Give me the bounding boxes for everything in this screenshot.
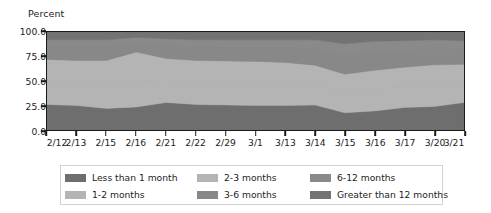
legend-swatch-icon	[310, 191, 331, 199]
x-axis-tick-mark	[374, 131, 376, 136]
legend-item[interactable]: 6-12 months	[310, 169, 440, 186]
legend-grid: Less than 1 month2-3 months6-12 months1-…	[65, 169, 440, 203]
x-axis-tick-mark	[255, 131, 257, 136]
x-axis-tick-label: 3/15	[335, 137, 356, 148]
legend-item-label: 2-3 months	[224, 173, 277, 182]
x-axis-tick-label: 3/20	[425, 137, 446, 148]
x-axis-tick-label: 3/13	[275, 137, 296, 148]
legend-swatch-icon	[310, 174, 331, 182]
x-axis-tick-mark	[165, 131, 167, 136]
legend-item[interactable]: Greater than 12 months	[310, 186, 440, 203]
x-axis-tick-mark	[285, 131, 287, 136]
chart-legend: Less than 1 month2-3 months6-12 months1-…	[60, 165, 443, 205]
x-axis-tick-mark	[464, 131, 466, 136]
x-axis-tick-label: 3/14	[305, 137, 326, 148]
x-axis-tick-mark	[75, 131, 77, 136]
y-axis-tick-label: 25.0	[4, 101, 46, 112]
x-axis-tick-mark	[195, 131, 197, 136]
x-axis-tick-label: 3/21	[444, 137, 465, 148]
x-axis: 2/122/132/152/162/212/222/293/13/133/143…	[46, 131, 465, 157]
x-axis-tick-label: 2/15	[96, 137, 117, 148]
legend-item[interactable]: 2-3 months	[197, 169, 310, 186]
y-axis-tick-label: 75.0	[4, 51, 46, 62]
x-axis-tick-label: 3/16	[365, 137, 386, 148]
x-axis-tick-label: 3/1	[248, 137, 263, 148]
x-axis-tick-label: 2/12	[47, 137, 68, 148]
x-axis-tick-mark	[434, 131, 436, 136]
stacked-area-series	[47, 32, 464, 130]
legend-item-label: 6-12 months	[337, 173, 395, 182]
legend-item[interactable]: 1-2 months	[65, 186, 197, 203]
x-axis-tick-mark	[344, 131, 346, 136]
legend-item-label: 1-2 months	[92, 190, 145, 199]
plot-area	[46, 31, 465, 131]
y-axis: 0.025.050.075.0100.0	[0, 0, 46, 213]
legend-swatch-icon	[197, 174, 218, 182]
chart-page: Percent 0.025.050.075.0100.0 2/122/132/1…	[0, 0, 491, 213]
legend-item-label: 3-6 months	[224, 190, 277, 199]
y-axis-tick-label: 50.0	[4, 76, 46, 87]
x-axis-tick-mark	[105, 131, 107, 136]
x-axis-tick-label: 2/22	[185, 137, 206, 148]
x-axis-tick-label: 2/29	[215, 137, 236, 148]
x-axis-tick-mark	[45, 131, 47, 136]
legend-swatch-icon	[65, 191, 86, 199]
legend-item[interactable]: Less than 1 month	[65, 169, 197, 186]
legend-item[interactable]: 3-6 months	[197, 186, 310, 203]
x-axis-tick-label: 2/21	[155, 137, 176, 148]
x-axis-tick-label: 2/13	[66, 137, 87, 148]
x-axis-tick-label: 3/17	[395, 137, 416, 148]
y-axis-tick-label: 0.0	[4, 126, 46, 137]
x-axis-tick-mark	[315, 131, 317, 136]
legend-swatch-icon	[65, 174, 86, 182]
x-axis-tick-mark	[225, 131, 227, 136]
x-axis-tick-label: 2/16	[125, 137, 146, 148]
legend-item-label: Less than 1 month	[92, 173, 178, 182]
x-axis-tick-mark	[404, 131, 406, 136]
x-axis-tick-mark	[135, 131, 137, 136]
legend-item-label: Greater than 12 months	[337, 190, 448, 199]
legend-swatch-icon	[197, 191, 218, 199]
y-axis-tick-label: 100.0	[4, 26, 46, 37]
